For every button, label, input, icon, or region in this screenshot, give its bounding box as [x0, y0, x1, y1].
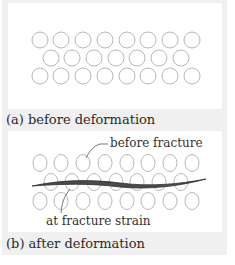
atom-circle	[97, 32, 113, 48]
atom-circle	[140, 68, 156, 84]
atom-circle	[162, 32, 178, 48]
atom-circle	[98, 155, 112, 172]
atom-circle	[163, 155, 177, 172]
label-before-fracture: before fracture	[110, 136, 203, 150]
atom-circle	[185, 193, 199, 210]
atom-circle	[129, 50, 145, 66]
atom-circle	[184, 68, 200, 84]
caption-after-deformation: (b) after deformation	[6, 236, 145, 251]
atom-circle	[86, 50, 102, 66]
atom-circle	[184, 32, 200, 48]
atom-circle	[33, 155, 47, 172]
atom-circle	[32, 32, 48, 48]
atom-circle	[119, 32, 135, 48]
atom-circle	[151, 50, 167, 66]
atoms-before-deformation	[32, 32, 200, 84]
atom-circle	[54, 155, 68, 172]
atom-circle	[75, 68, 91, 84]
atom-circle	[76, 155, 90, 172]
atom-circle	[97, 68, 113, 84]
atom-circle	[119, 68, 135, 84]
atom-circle	[53, 32, 69, 48]
atom-circle	[43, 50, 59, 66]
leader-line-before-fracture	[86, 144, 108, 158]
atom-circle	[32, 68, 48, 84]
atom-circle	[108, 50, 124, 66]
atom-circle	[53, 68, 69, 84]
label-at-fracture-strain: at fracture strain	[46, 214, 150, 228]
atom-circle	[120, 193, 134, 210]
atom-circle	[98, 193, 112, 210]
atom-circle	[33, 193, 47, 210]
atom-circle	[120, 155, 134, 172]
atom-circle	[141, 155, 155, 172]
atom-circle	[75, 32, 91, 48]
atom-circle	[185, 155, 199, 172]
atom-circle	[163, 193, 177, 210]
atom-circle	[76, 193, 90, 210]
atom-circle	[162, 68, 178, 84]
atom-circle	[140, 32, 156, 48]
atom-circle	[173, 50, 189, 66]
atom-circle	[141, 193, 155, 210]
atom-circle	[64, 50, 80, 66]
caption-before-deformation: (a) before deformation	[6, 112, 155, 127]
